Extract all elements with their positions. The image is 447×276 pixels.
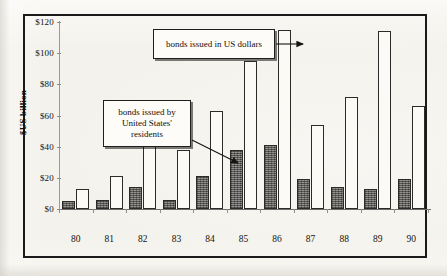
x-axis-tick-mark [93, 209, 94, 213]
bar-shaded-83 [163, 200, 176, 209]
y-axis-tick-label: $0 [22, 204, 54, 214]
y-axis-tick-label: $40 [22, 142, 54, 152]
bar-group [327, 22, 361, 209]
annotation-bonds-by-us-residents: bonds issued by United States' residents [103, 100, 191, 147]
scan-edge-shadow-bottom [0, 264, 447, 276]
x-axis-tick-label-86: 86 [272, 234, 282, 244]
bar-open-85 [244, 61, 257, 209]
annotation-residents-line-3: residents [131, 129, 163, 140]
scan-edge-shadow-left [0, 0, 10, 276]
bar-group [294, 22, 328, 209]
bar-shaded-85 [230, 150, 243, 209]
bar-group [361, 22, 395, 209]
bar-shaded-88 [331, 187, 344, 209]
bar-shaded-87 [297, 179, 310, 209]
bar-open-82 [143, 145, 156, 209]
bar-open-90 [412, 106, 425, 209]
bar-open-87 [311, 125, 324, 209]
x-axis-tick-label-80: 80 [71, 234, 81, 244]
bar-open-84 [210, 111, 223, 209]
x-axis-tick-label-82: 82 [138, 234, 148, 244]
x-axis-tick-mark [126, 209, 127, 213]
x-axis-tick-label-85: 85 [239, 234, 249, 244]
x-axis-tick-label-90: 90 [406, 234, 416, 244]
bar-shaded-84 [196, 176, 209, 209]
x-axis-tick-label-88: 88 [339, 234, 349, 244]
x-axis-tick-mark [294, 209, 295, 213]
bar-open-80 [76, 189, 89, 209]
y-axis-tick-label: $80 [22, 79, 54, 89]
bar-group [394, 22, 428, 209]
bar-shaded-82 [129, 187, 142, 209]
bar-open-83 [177, 150, 190, 209]
bar-shaded-90 [398, 179, 411, 209]
x-axis-tick-label-89: 89 [373, 234, 383, 244]
y-axis-tick-label: $120 [22, 17, 54, 27]
annotation-residents-line-1: bonds issued by [118, 107, 176, 118]
x-axis-tick-mark [394, 209, 395, 213]
bar-open-89 [378, 31, 391, 209]
bar-shaded-86 [264, 145, 277, 209]
x-axis-tick-label-81: 81 [105, 234, 115, 244]
x-axis-tick-mark [59, 209, 60, 213]
x-axis-tick-mark [160, 209, 161, 213]
annotation-dollars-line-1: bonds issued in US dollars [166, 39, 262, 50]
x-axis-line [59, 209, 431, 210]
x-axis-tick-mark [260, 209, 261, 213]
annotation-residents-line-2: United States' [122, 118, 172, 129]
x-axis-tick-mark [327, 209, 328, 213]
y-axis-tick-label: $20 [22, 173, 54, 183]
bar-shaded-89 [364, 189, 377, 209]
y-axis-tick-label: $60 [22, 111, 54, 121]
bar-shaded-81 [96, 200, 109, 209]
x-axis-tick-label-83: 83 [172, 234, 182, 244]
bar-open-88 [345, 97, 358, 209]
chart-page: $US billion $0$20$40$60$80$100$120 80818… [0, 0, 447, 276]
x-axis-tick-mark [193, 209, 194, 213]
x-axis-tick-label-87: 87 [306, 234, 316, 244]
x-axis-tick-mark [428, 209, 429, 213]
bar-group [59, 22, 93, 209]
bar-open-81 [110, 176, 123, 209]
y-axis-tick-label: $100 [22, 48, 54, 58]
annotation-bonds-in-us-dollars: bonds issued in US dollars [153, 29, 275, 59]
bar-shaded-80 [62, 201, 75, 209]
x-axis-tick-mark [227, 209, 228, 213]
bar-open-86 [278, 30, 291, 209]
x-axis-tick-mark [361, 209, 362, 213]
x-axis-tick-label-84: 84 [205, 234, 215, 244]
